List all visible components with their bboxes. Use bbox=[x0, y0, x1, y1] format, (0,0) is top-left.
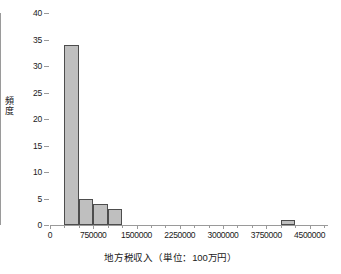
y-axis-tick bbox=[44, 13, 49, 14]
y-axis-tick-label: 10 bbox=[18, 168, 42, 177]
x-axis-tick-label: 3750000 bbox=[251, 231, 282, 240]
histogram-bar bbox=[108, 209, 122, 225]
bars-container bbox=[50, 13, 324, 225]
x-axis-tick-minor bbox=[281, 225, 282, 228]
histogram-bar bbox=[281, 220, 295, 225]
x-axis-tick-major bbox=[137, 225, 138, 229]
x-axis-tick-label: 4500000 bbox=[294, 231, 325, 240]
x-axis-tick-minor bbox=[79, 225, 80, 228]
y-axis-tick-label: 30 bbox=[18, 62, 42, 71]
x-axis-tick-minor bbox=[122, 225, 123, 228]
y-axis-line bbox=[0, 13, 1, 225]
x-axis-tick-minor bbox=[194, 225, 195, 228]
x-axis-tick-minor bbox=[108, 225, 109, 228]
y-axis-title: 頻度 bbox=[4, 96, 15, 116]
x-axis-tick-minor bbox=[165, 225, 166, 228]
y-axis-tick bbox=[44, 146, 49, 147]
x-axis-tick-minor bbox=[151, 225, 152, 228]
x-axis-tick-label: 3000000 bbox=[208, 231, 239, 240]
y-axis-tick-label: 35 bbox=[18, 36, 42, 45]
y-axis-tick-label: 15 bbox=[18, 142, 42, 151]
y-axis-tick bbox=[44, 119, 49, 120]
x-axis-tick-minor bbox=[324, 225, 325, 228]
x-axis-tick-label: 2250000 bbox=[164, 231, 195, 240]
y-axis-tick-label: 25 bbox=[18, 89, 42, 98]
y-axis-tick-label: 40 bbox=[18, 9, 42, 18]
y-axis-tick bbox=[44, 66, 49, 67]
y-axis-tick bbox=[44, 225, 49, 226]
x-axis-tick-label: 0 bbox=[48, 231, 52, 240]
x-axis-tick-minor bbox=[252, 225, 253, 228]
y-axis-tick bbox=[44, 40, 49, 41]
y-axis-tick bbox=[44, 93, 49, 94]
x-axis-tick-label: 750000 bbox=[80, 231, 107, 240]
x-axis-tick-minor bbox=[237, 225, 238, 228]
y-axis-tick bbox=[44, 199, 49, 200]
x-axis-tick-major bbox=[180, 225, 181, 229]
x-axis-tick-minor bbox=[64, 225, 65, 228]
x-axis-tick-major bbox=[223, 225, 224, 229]
x-axis-tick-minor bbox=[295, 225, 296, 228]
x-axis-title: 地方税収入（単位：100万円） bbox=[0, 252, 341, 263]
x-axis-tick-major bbox=[266, 225, 267, 229]
histogram-chart: 頻度 0510152025303540 07500001500000225000… bbox=[0, 0, 341, 274]
y-axis-tick-label: 20 bbox=[18, 115, 42, 124]
y-axis-tick bbox=[44, 172, 49, 173]
x-axis-tick-major bbox=[310, 225, 311, 229]
x-axis-line bbox=[50, 225, 328, 226]
histogram-bar bbox=[93, 204, 107, 225]
x-axis-tick-major bbox=[93, 225, 94, 229]
y-axis-tick-label: 5 bbox=[18, 195, 42, 204]
x-axis-tick-label: 1500000 bbox=[121, 231, 152, 240]
x-axis-tick-major bbox=[50, 225, 51, 229]
y-axis-tick-label: 0 bbox=[18, 221, 42, 230]
histogram-bar bbox=[64, 45, 78, 225]
histogram-bar bbox=[79, 199, 93, 226]
y-axis-title-text: 頻度 bbox=[5, 96, 14, 116]
x-axis-tick-minor bbox=[209, 225, 210, 228]
